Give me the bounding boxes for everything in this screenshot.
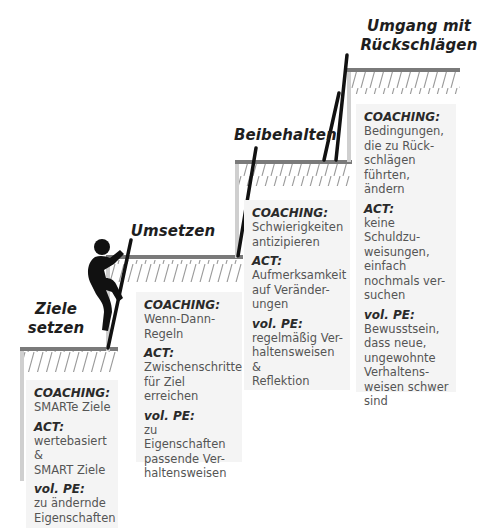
act-text: Aufmerksamkeit auf Veränder- ungen [252, 268, 346, 312]
step-2-panel: COACHING: Wenn-Dann- Regeln ACT: Zwische… [136, 292, 242, 462]
step-4-panel: COACHING: Bedingungen, die zu Rück- schl… [356, 104, 456, 392]
staircase-diagram: Ziele setzen Umsetzen Beibehalten Umgang… [0, 0, 478, 528]
step-3-panel: COACHING: Schwierigkeiten antizipieren A… [244, 200, 350, 390]
act-label: ACT: [144, 346, 238, 360]
volpe-text: zu ändernde Eigenschaften [34, 496, 114, 525]
volpe-label: vol. PE: [364, 308, 452, 322]
coaching-text: Bedingungen, die zu Rück- schlägen führt… [364, 124, 452, 197]
act-text: Zwischenschritte für Ziel erreichen [144, 360, 238, 404]
coaching-label: COACHING: [144, 298, 238, 312]
volpe-label: vol. PE: [144, 409, 238, 423]
volpe-label: vol. PE: [34, 482, 114, 496]
step-1-panel: COACHING: SMARTe Ziele ACT: wertebasiert… [26, 380, 118, 528]
ladder-4 [336, 55, 347, 160]
coaching-text: Wenn-Dann- Regeln [144, 312, 238, 341]
act-text: wertebasiert & SMART Ziele [34, 434, 114, 478]
step-1-title: Ziele setzen [16, 300, 96, 338]
act-label: ACT: [252, 254, 346, 268]
coaching-text: SMARTe Ziele [34, 400, 114, 415]
volpe-text: regelmäßig Ver- haltensweisen & Reflekti… [252, 331, 346, 389]
coaching-label: COACHING: [364, 110, 452, 124]
volpe-text: zu Eigenschaften passende Ver- haltenswe… [144, 423, 238, 481]
step-2-title: Umsetzen [123, 222, 223, 241]
act-text: keine Schuldzu- weisungen, einfach nochm… [364, 216, 452, 303]
coaching-label: COACHING: [252, 206, 346, 220]
coaching-text: Schwierigkeiten antizipieren [252, 220, 346, 249]
act-label: ACT: [364, 202, 452, 216]
step-4-title: Umgang mit Rückschlägen [360, 17, 478, 55]
step-3-title: Beibehalten [234, 126, 334, 145]
act-label: ACT: [34, 420, 114, 434]
volpe-text: Bewusstsein, dass neue, ungewohnte Verha… [364, 322, 452, 409]
coaching-label: COACHING: [34, 386, 114, 400]
volpe-label: vol. PE: [252, 317, 346, 331]
